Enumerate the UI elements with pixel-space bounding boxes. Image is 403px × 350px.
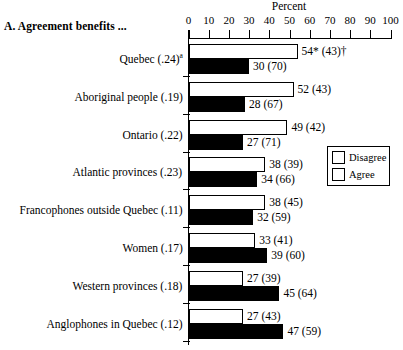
bar-disagree <box>189 59 250 74</box>
legend: Disagree Agree <box>327 146 390 186</box>
page-title: A. Agreement benefits ... <box>4 20 127 32</box>
bar-agree <box>189 82 294 97</box>
category-label: Quebec (.24)a <box>120 53 183 65</box>
bar-value-agree: 49 (42) <box>291 120 325 135</box>
x-axis-tick-label: 90 <box>365 14 376 26</box>
y-axis-group-tick <box>183 303 190 304</box>
bar-value-disagree: 47 (59) <box>287 324 321 339</box>
bar-agree <box>189 120 288 135</box>
legend-item-agree: Agree <box>332 168 375 181</box>
bar-disagree <box>189 286 280 301</box>
category-label: Western provinces (.18) <box>73 280 183 292</box>
bar-value-disagree: 45 (64) <box>283 286 317 301</box>
category-label: Ontario (.22) <box>123 129 183 141</box>
bar-value-disagree: 27 (71) <box>247 135 281 150</box>
bar-disagree <box>189 135 244 150</box>
bar-disagree <box>189 324 284 339</box>
bar-value-agree: 33 (41) <box>259 233 293 248</box>
bar-agree <box>189 271 244 286</box>
bar-value-disagree: 39 (60) <box>271 248 305 263</box>
bar-agree <box>189 157 266 172</box>
category-label: Francophones outside Quebec (.11) <box>20 204 183 216</box>
bar-agree <box>189 309 244 324</box>
y-axis-group-tick <box>183 189 190 190</box>
bar-value-agree: 54* (43)† <box>302 44 347 59</box>
bar-agree <box>189 195 266 210</box>
bar-value-agree: 38 (45) <box>269 195 303 210</box>
category-label-superscript: a <box>180 51 183 60</box>
x-axis-tick-label: 10 <box>203 14 214 26</box>
x-axis-tick-label: 20 <box>223 14 234 26</box>
x-axis-tick-label: 70 <box>324 14 335 26</box>
bar-disagree <box>189 97 246 112</box>
y-axis-group-tick <box>183 152 190 153</box>
legend-label-disagree: Disagree <box>349 151 386 164</box>
bar-agree <box>189 233 256 248</box>
bar-value-disagree: 28 (67) <box>249 97 283 112</box>
category-label: Atlantic provinces (.23) <box>73 166 183 178</box>
y-axis-group-tick <box>183 114 190 115</box>
x-axis-tick-label: 80 <box>345 14 356 26</box>
x-axis-tick-label: 50 <box>284 14 295 26</box>
x-axis-title: Percent <box>188 0 390 12</box>
legend-swatch-agree <box>332 168 345 181</box>
bar-value-agree: 27 (39) <box>247 271 281 286</box>
bar-value-disagree: 34 (66) <box>261 172 295 187</box>
bar-disagree <box>189 210 254 225</box>
x-axis-tick-label: 60 <box>304 14 315 26</box>
chart-panel: A. Agreement benefits ... Percent 010203… <box>0 0 403 350</box>
bar-value-disagree: 32 (59) <box>257 210 291 225</box>
bar-value-disagree: 30 (70) <box>253 59 287 74</box>
category-label: Aboriginal people (.19) <box>75 91 183 103</box>
y-axis-group-tick <box>183 76 190 77</box>
legend-swatch-disagree <box>332 151 345 164</box>
bar-disagree <box>189 248 268 263</box>
category-label: Women (.17) <box>123 242 183 254</box>
x-axis-tick-label: 0 <box>186 14 192 26</box>
bar-value-agree: 27 (43) <box>247 309 281 324</box>
legend-label-agree: Agree <box>349 168 375 181</box>
x-axis-tick-mark <box>391 30 392 39</box>
bar-value-agree: 52 (43) <box>298 82 332 97</box>
y-axis-group-tick <box>183 265 190 266</box>
x-axis-tick-label: 40 <box>264 14 275 26</box>
bar-disagree <box>189 172 258 187</box>
x-axis-tick-label: 30 <box>244 14 255 26</box>
bar-agree <box>189 44 298 59</box>
bar-value-agree: 38 (39) <box>269 157 303 172</box>
legend-item-disagree: Disagree <box>332 151 386 164</box>
x-axis-line <box>188 38 391 39</box>
y-axis-group-tick <box>183 227 190 228</box>
category-label: Anglophones in Quebec (.12) <box>47 318 183 330</box>
y-axis-group-tick <box>183 341 190 342</box>
x-axis-tick-label: 100 <box>382 14 399 26</box>
